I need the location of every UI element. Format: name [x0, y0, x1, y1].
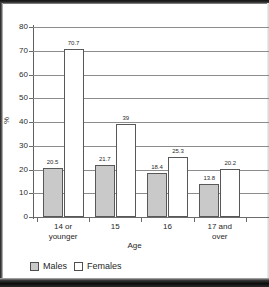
- x-axis-line: [33, 217, 269, 218]
- gridline: [33, 27, 269, 28]
- x-axis-category-line: 17 and: [190, 222, 250, 232]
- bar-females-1: [116, 124, 136, 217]
- bar-females-0: [64, 49, 84, 217]
- y-axis-tick-label: 0: [2, 213, 28, 221]
- bar-value-label: 21.7: [89, 156, 121, 162]
- legend-label: Females: [87, 262, 122, 271]
- bar-value-label: 20.5: [37, 159, 69, 165]
- bar-value-label: 13.8: [193, 175, 225, 181]
- y-axis-tick-label: 80: [2, 23, 28, 31]
- chart-page: % 01020304050607080 20.570.721.73918.425…: [0, 0, 269, 287]
- gray-square-icon: [30, 262, 39, 271]
- chart-legend: MalesFemales: [30, 262, 122, 271]
- x-axis-category-line: 14 or: [33, 222, 93, 232]
- white-square-icon: [74, 262, 83, 271]
- plot-area: [33, 27, 269, 217]
- x-axis-category-label: 14 oryounger: [33, 222, 93, 242]
- x-axis-category-line: 16: [138, 222, 198, 232]
- bar-value-label: 25.3: [162, 148, 194, 154]
- bar-males-1: [95, 165, 115, 217]
- bar-males-0: [43, 168, 63, 217]
- x-axis-category-label: 15: [85, 222, 145, 232]
- legend-label: Males: [43, 262, 67, 271]
- x-axis-title: Age: [0, 241, 269, 250]
- bar-males-3: [199, 184, 219, 217]
- x-axis-category-line: 15: [85, 222, 145, 232]
- y-axis-tick-label: 30: [2, 142, 28, 150]
- legend-item-males: Males: [30, 262, 67, 271]
- y-axis-tick-label: 50: [2, 94, 28, 102]
- x-axis-category-label: 17 andover: [190, 222, 250, 242]
- x-axis-category-label: 16: [138, 222, 198, 232]
- bar-value-label: 18.4: [141, 164, 173, 170]
- page-edge-bottom: [0, 278, 269, 287]
- grouped-bar-chart: % 01020304050607080 20.570.721.73918.425…: [0, 0, 269, 287]
- bar-value-label: 20.2: [214, 160, 246, 166]
- y-axis-tick-label: 60: [2, 71, 28, 79]
- legend-item-females: Females: [74, 262, 122, 271]
- bar-value-label: 70.7: [58, 40, 90, 46]
- bar-males-2: [147, 173, 167, 217]
- bar-value-label: 39: [110, 115, 142, 121]
- y-axis-tick-label: 10: [2, 189, 28, 197]
- y-axis-tick-label: 40: [2, 118, 28, 126]
- y-axis-tick-label: 70: [2, 47, 28, 55]
- y-axis-tick-label: 20: [2, 166, 28, 174]
